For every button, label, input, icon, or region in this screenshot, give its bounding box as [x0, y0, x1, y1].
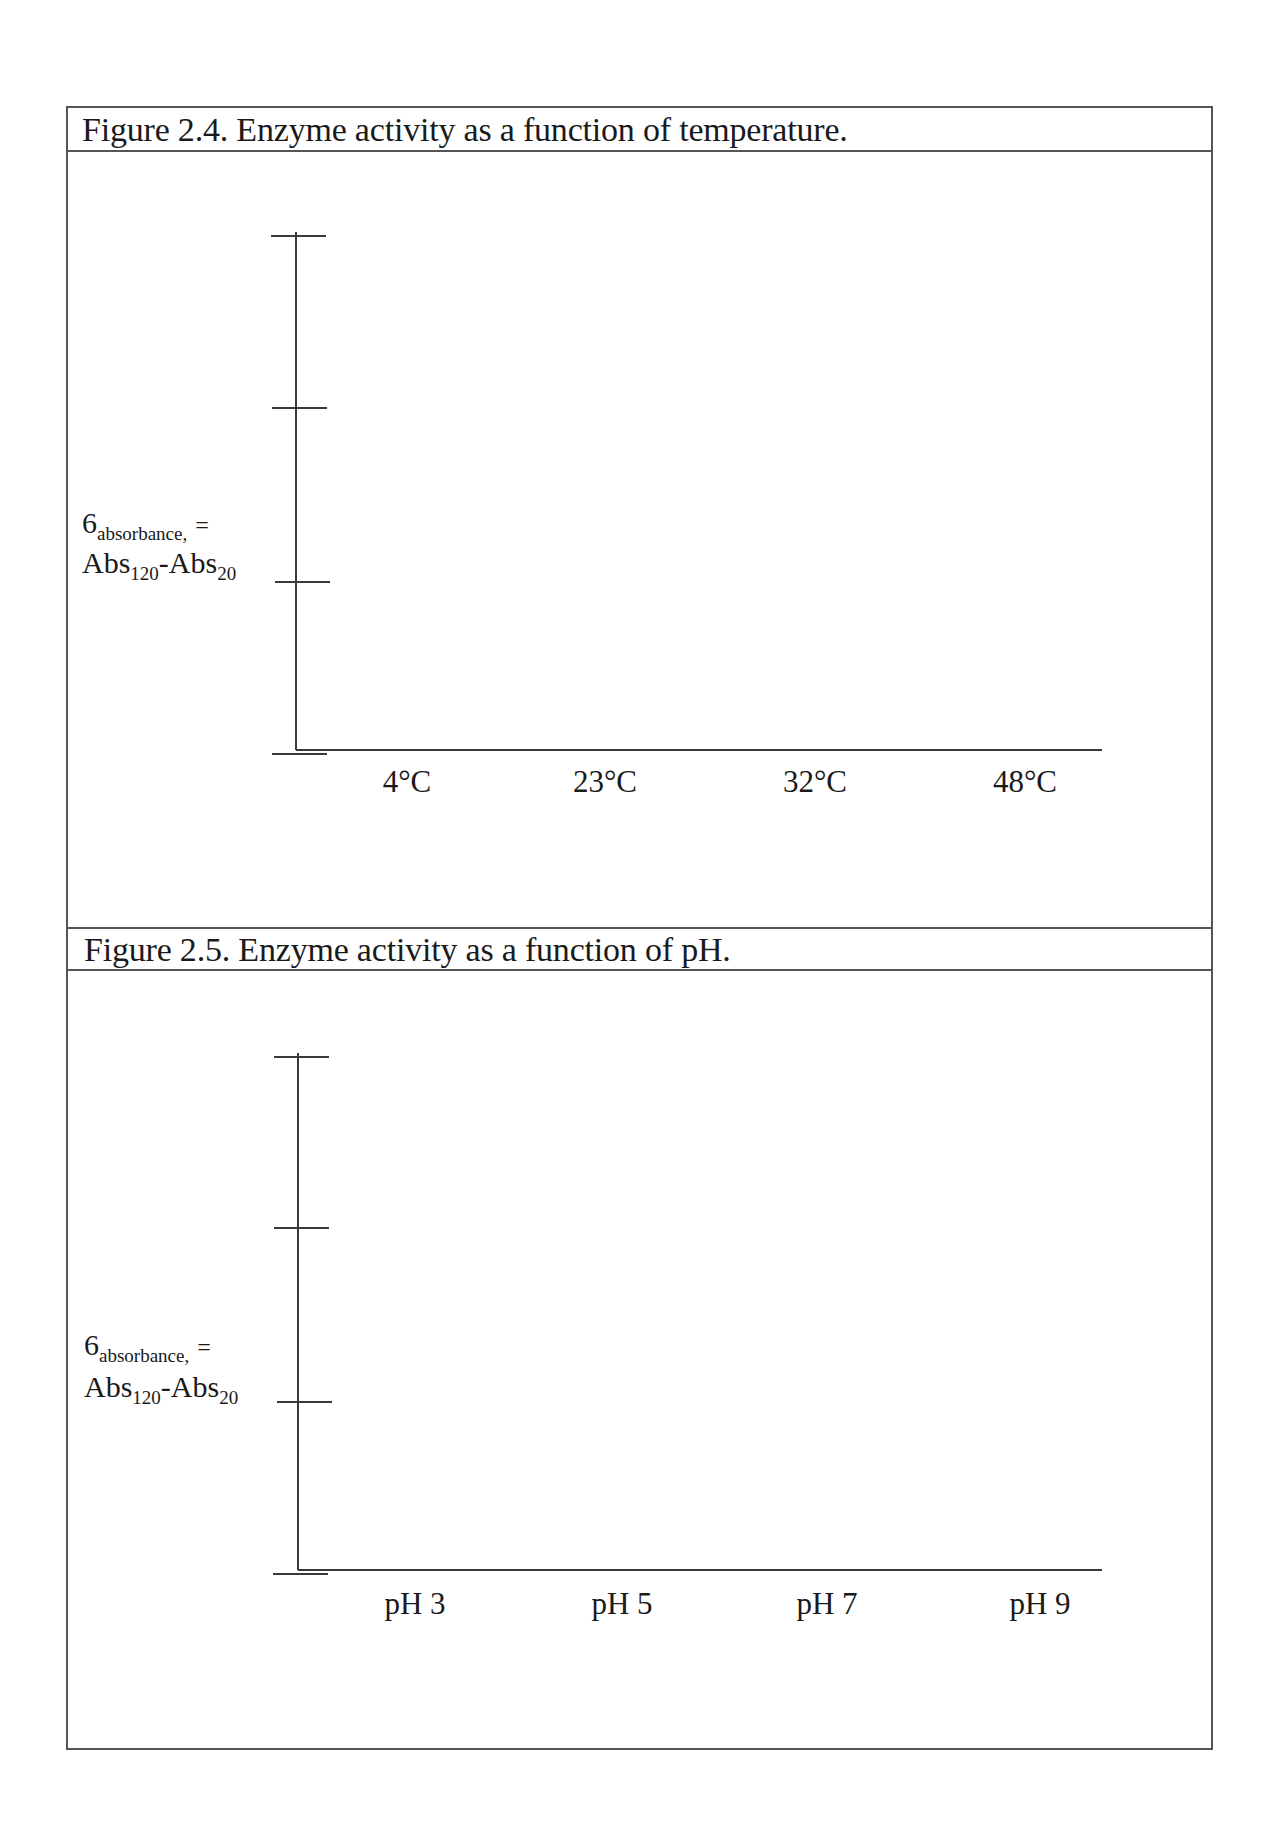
y-label-abs-1: Abs [84, 1370, 132, 1403]
figure-2-5-x-tick-label: pH 5 [591, 1588, 652, 1619]
figure-2-4-title: Figure 2.4. Enzyme activity as a functio… [82, 113, 848, 147]
figure-2-4-y-axis-label: 6absorbance,= [82, 508, 209, 538]
figure-2-4-x-tick-label: 23°C [573, 766, 637, 797]
figure-2-4-x-tick-label: 32°C [783, 766, 847, 797]
figure-2-5-y-tick-2 [274, 1227, 329, 1229]
figure-2-4-y-axis [295, 232, 297, 750]
y-label-abs-2: -Abs [161, 1370, 219, 1403]
figure-2-4-y-tick-2 [272, 407, 327, 409]
figure-2-5-title: Figure 2.5. Enzyme activity as a functio… [84, 933, 731, 967]
figure-2-4-y-tick-1 [271, 235, 326, 237]
y-label-abs-2: -Abs [159, 546, 217, 579]
figure-2-5-y-axis-formula: Abs120-Abs20 [84, 1372, 238, 1402]
figure-2-5-x-tick-label: pH 3 [384, 1588, 445, 1619]
y-label-abs-1: Abs [82, 546, 130, 579]
y-label-equals: = [197, 1334, 211, 1360]
frame-top-border [66, 106, 1213, 108]
figure-2-4-x-tick-label: 48°C [993, 766, 1057, 797]
figure-2-4-y-tick-3 [275, 581, 330, 583]
figure-2-5-y-tick-3 [277, 1401, 332, 1403]
y-label-delta-symbol: 6 [84, 1328, 99, 1361]
figure-2-5-y-tick-4 [273, 1573, 328, 1575]
y-label-delta-symbol: 6 [82, 506, 97, 539]
figure-2-5-title-divider [66, 969, 1213, 971]
figure-2-5-x-tick-label: pH 7 [796, 1588, 857, 1619]
figure-2-5-y-tick-1 [274, 1056, 329, 1058]
figure-2-5-y-axis [297, 1053, 299, 1570]
y-label-absorbance-subscript: absorbance, [99, 1345, 189, 1366]
y-label-sub-20: 20 [217, 563, 236, 584]
figure-2-4-y-axis-formula: Abs120-Abs20 [82, 548, 236, 578]
y-label-line-1: 6absorbance,= [82, 508, 209, 538]
figure-2-4-y-tick-4 [272, 753, 327, 755]
figure-2-4-x-axis [296, 749, 1102, 751]
y-label-sub-120: 120 [130, 563, 159, 584]
frame-bottom-border [66, 1748, 1213, 1750]
figure-2-4-x-tick-label: 4°C [383, 766, 432, 797]
figure-2-4-title-divider [66, 150, 1213, 152]
figure-2-5-top-divider [66, 927, 1213, 929]
y-label-absorbance-subscript: absorbance, [97, 523, 187, 544]
y-label-sub-20: 20 [219, 1387, 238, 1408]
y-label-equals: = [195, 512, 209, 538]
figure-2-5-x-tick-label: pH 9 [1009, 1588, 1070, 1619]
figure-2-5-y-axis-label: 6absorbance,= [84, 1330, 211, 1360]
y-label-sub-120: 120 [132, 1387, 161, 1408]
figure-2-5-x-axis [298, 1569, 1102, 1571]
